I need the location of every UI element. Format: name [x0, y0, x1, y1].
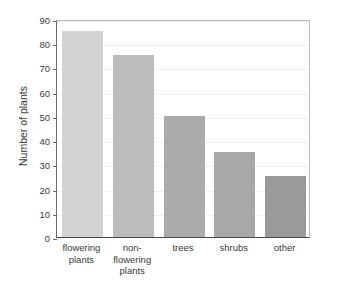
- x-axis-tick-label: shrubs: [208, 242, 259, 254]
- bar: [214, 152, 255, 237]
- x-axis-label-line: plants: [56, 254, 107, 266]
- plot-area: 9080706050403020100: [56, 20, 310, 238]
- y-axis-tick-label: 60: [39, 89, 50, 99]
- y-axis-tick-label: 90: [39, 16, 50, 26]
- x-axis-tick-label: trees: [158, 242, 209, 254]
- x-axis-label-line: flowering: [107, 254, 158, 266]
- bar-chart-figure: Number of plants 9080706050403020100 flo…: [0, 0, 343, 301]
- y-axis-tick-label: 30: [39, 162, 50, 172]
- x-axis-tick-label: floweringplants: [56, 242, 107, 265]
- y-axis-tick-label: 80: [39, 40, 50, 50]
- bar: [62, 31, 103, 237]
- bar: [265, 176, 306, 237]
- x-axis-labels: floweringplantsnon-floweringplantstreess…: [56, 242, 310, 300]
- x-axis-label-line: trees: [158, 242, 209, 254]
- x-axis-label-line: shrubs: [208, 242, 259, 254]
- y-axis-tick-label: 20: [39, 186, 50, 196]
- y-axis-tick: [53, 239, 57, 240]
- bar: [164, 116, 205, 237]
- chart-title: [0, 0, 343, 3]
- y-axis-tick-label: 10: [39, 210, 50, 220]
- y-axis-tick-label: 0: [45, 234, 50, 244]
- y-axis-title: Number of plants: [17, 51, 29, 201]
- x-axis-tick-label: other: [259, 242, 310, 254]
- bar: [113, 55, 154, 237]
- x-axis-label-line: plants: [107, 265, 158, 277]
- x-axis-label-line: non-: [107, 242, 158, 254]
- y-axis-tick-label: 70: [39, 65, 50, 75]
- y-axis-tick-label: 50: [39, 113, 50, 123]
- bars-group: [57, 21, 309, 237]
- x-axis-label-line: other: [259, 242, 310, 254]
- x-axis-tick-label: non-floweringplants: [107, 242, 158, 277]
- y-axis-tick-label: 40: [39, 137, 50, 147]
- x-axis-label-line: flowering: [56, 242, 107, 254]
